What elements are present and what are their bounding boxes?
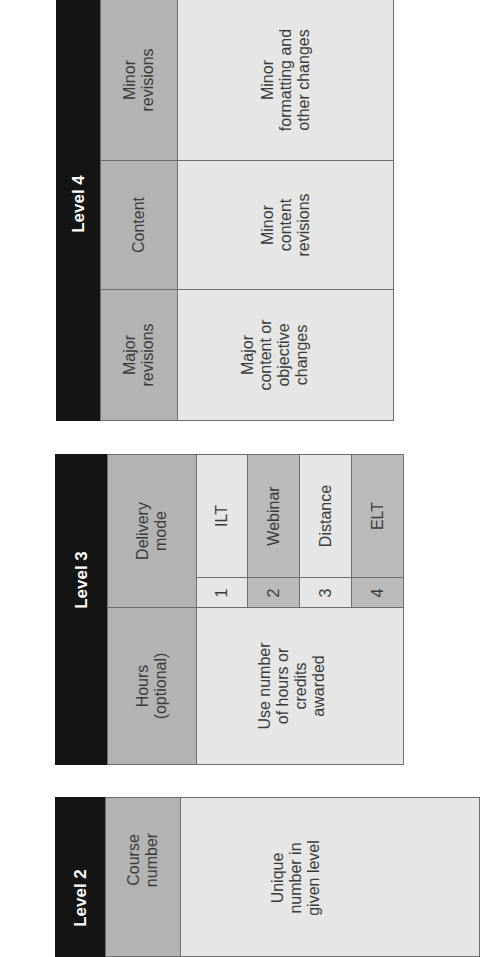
row-header-label: Minor revisions xyxy=(121,48,157,111)
level-2-header: Level 2 xyxy=(55,797,106,957)
cell-major-revisions-description: Major content or objective changes xyxy=(177,289,394,421)
level-4-label: Level 4 xyxy=(69,175,88,233)
option-label: ELT xyxy=(369,502,387,530)
cell-text: Use number of hours or credits awarded xyxy=(256,642,328,729)
cell-text: Minor content revisions xyxy=(259,193,313,256)
row-header-label: Content xyxy=(130,197,148,253)
delivery-option-number-1: 1 xyxy=(196,577,248,608)
row-header-course-number: Course number xyxy=(105,797,181,957)
level-3-header: Level 3 xyxy=(55,454,108,765)
cell-minor-revisions-description: Minor formatting and other changes xyxy=(177,0,394,161)
option-label: Distance xyxy=(317,485,335,547)
row-header-delivery-mode: Delivery mode xyxy=(107,454,197,608)
delivery-option-number-2: 2 xyxy=(247,577,300,608)
cell-text: Major content or objective changes xyxy=(239,319,311,390)
row-header-minor-revisions: Minor revisions xyxy=(100,0,178,161)
cell-hours-description: Use number of hours or credits awarded xyxy=(196,607,404,765)
row-header-label: Course number xyxy=(125,833,161,887)
delivery-option-distance: Distance xyxy=(299,454,352,578)
level-2-label: Level 2 xyxy=(71,869,90,927)
row-header-label: Hours (optional) xyxy=(134,653,170,720)
delivery-option-webinar: Webinar xyxy=(247,454,300,578)
row-header-content: Content xyxy=(100,160,178,290)
row-header-label: Delivery mode xyxy=(134,502,170,560)
option-label: Webinar xyxy=(265,486,283,545)
option-number: 3 xyxy=(317,588,335,597)
option-number: 1 xyxy=(213,588,231,597)
level-4-header: Level 4 xyxy=(56,0,101,421)
cell-course-number-description: Unique number in given level xyxy=(180,797,480,957)
row-header-major-revisions: Major revisions xyxy=(100,289,178,421)
cell-content-description: Minor content revisions xyxy=(177,160,394,290)
row-header-hours: Hours (optional) xyxy=(107,607,197,765)
option-number: 4 xyxy=(369,588,387,597)
delivery-option-number-3: 3 xyxy=(299,577,352,608)
option-number: 2 xyxy=(265,588,283,597)
delivery-option-number-4: 4 xyxy=(351,577,404,608)
delivery-option-ilt: ILT xyxy=(196,454,248,578)
option-label: ILT xyxy=(213,505,231,527)
row-header-label: Major revisions xyxy=(121,323,157,386)
cell-text: Unique number in given level xyxy=(269,840,323,916)
cell-text: Minor formatting and other changes xyxy=(259,28,313,130)
level-3-label: Level 3 xyxy=(72,551,91,609)
delivery-option-elt: ELT xyxy=(351,454,404,578)
